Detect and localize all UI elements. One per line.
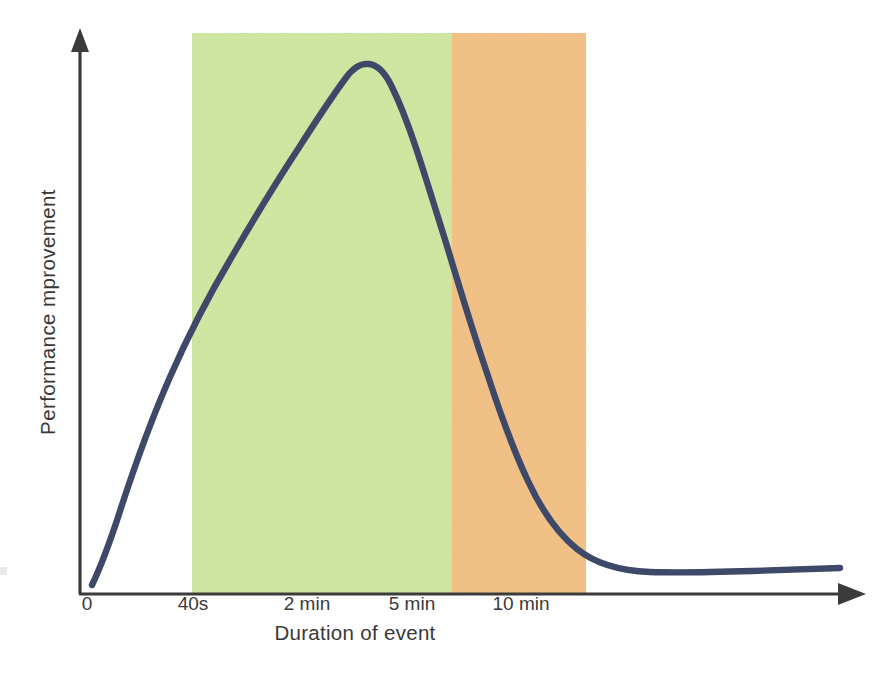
x-tick-label-2min: 2 min bbox=[247, 593, 367, 615]
right-arrow-icon bbox=[838, 583, 866, 605]
performance-improvement-curve bbox=[92, 64, 840, 585]
scan-artifact-speck bbox=[0, 567, 7, 575]
x-axis-label: Duration of event bbox=[215, 621, 495, 645]
up-arrow-icon bbox=[71, 28, 89, 52]
x-tick-label-10min: 10 min bbox=[461, 593, 581, 615]
y-axis-label: Performance mprovement bbox=[36, 172, 60, 452]
chart-figure: Performance mprovement 0 40s 2 min 5 min… bbox=[0, 0, 886, 684]
x-tick-label-5min: 5 min bbox=[352, 593, 472, 615]
plot-surface bbox=[0, 0, 886, 684]
x-tick-label-40s: 40s bbox=[133, 593, 253, 615]
x-tick-label-0: 0 bbox=[27, 593, 147, 615]
